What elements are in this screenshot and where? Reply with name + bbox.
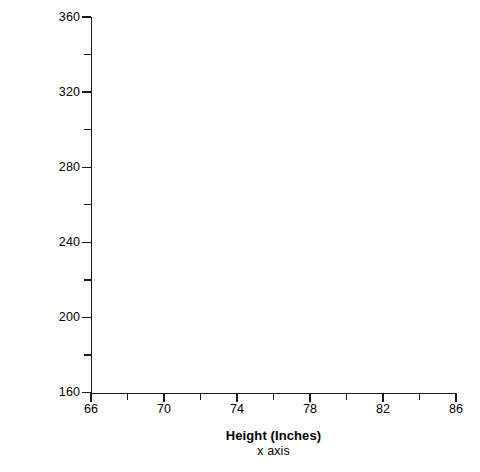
x-axis-tick-major: [309, 393, 310, 402]
x-axis-tick-minor: [273, 393, 274, 400]
y-axis-tick-label-text: 280: [36, 161, 80, 174]
x-axis-tick-minor: [200, 393, 201, 400]
y-axis-tick-minor: [84, 279, 91, 280]
plot-area: [92, 17, 456, 393]
x-axis-tick-major: [90, 393, 91, 402]
y-axis-tick-major: [82, 167, 91, 168]
x-axis-tick-label-text: 78: [280, 403, 340, 416]
y-axis-tick-label-text: 200: [36, 311, 80, 324]
x-axis-title-sub: x axis: [91, 444, 456, 459]
y-axis-tick-minor: [84, 54, 91, 55]
x-axis-tick-label-text: 82: [353, 403, 413, 416]
x-axis-tick-major: [236, 393, 237, 402]
x-axis-tick-label: 74: [207, 403, 267, 416]
x-axis-title-main: Height (Inches): [91, 428, 456, 444]
y-axis-tick-major: [82, 91, 91, 92]
y-axis-tick-label-text: 360: [36, 11, 80, 24]
x-axis-tick-label-text: 66: [61, 403, 121, 416]
y-axis-tick-major: [82, 242, 91, 243]
x-axis-tick-label-text: 74: [207, 403, 267, 416]
y-axis-tick-minor: [84, 129, 91, 130]
y-axis-tick-minor: [84, 354, 91, 355]
x-axis-tick-label: 86: [426, 403, 480, 416]
x-axis-tick-major: [163, 393, 164, 402]
x-axis-tick-label: 78: [280, 403, 340, 416]
chart-canvas: 160200240280320360 667074788286 Height (…: [0, 0, 480, 472]
y-axis-tick-major: [82, 317, 91, 318]
x-axis-tick-major: [382, 393, 383, 402]
y-axis-line: [91, 17, 92, 394]
y-axis-tick-major: [82, 16, 91, 17]
y-axis-tick-label-text: 160: [36, 386, 80, 399]
x-axis-tick-minor: [346, 393, 347, 400]
x-axis-tick-label-text: 86: [426, 403, 480, 416]
x-axis-tick-minor: [127, 393, 128, 400]
x-axis-tick-label: 66: [61, 403, 121, 416]
x-axis-tick-label: 70: [134, 403, 194, 416]
x-axis-tick-major: [455, 393, 456, 402]
y-axis-tick-minor: [84, 204, 91, 205]
x-axis-tick-label-text: 70: [134, 403, 194, 416]
y-axis-tick-label-text: 240: [36, 236, 80, 249]
x-axis-title: Height (Inches) x axis: [91, 428, 456, 459]
x-axis-tick-minor: [419, 393, 420, 400]
x-axis-tick-label: 82: [353, 403, 413, 416]
y-axis-tick-label-text: 320: [36, 86, 80, 99]
